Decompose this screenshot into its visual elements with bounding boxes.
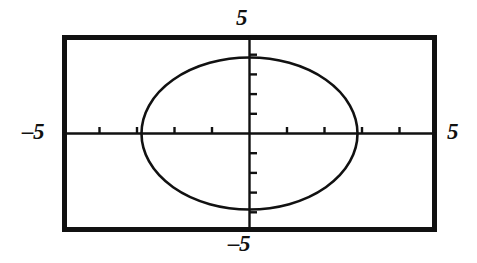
plot-area (0, 0, 477, 263)
graph-screenshot: 5 –5 –5 5 (0, 0, 477, 263)
plot-svg (0, 0, 477, 263)
